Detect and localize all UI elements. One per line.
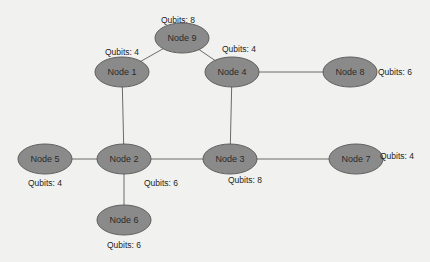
node-2: Node 2Qubits: 6: [97, 144, 178, 188]
qubits-label: Qubits: 8: [161, 15, 195, 25]
node-label: Node 1: [107, 67, 136, 77]
node-7: Node 7Qubits: 4: [329, 144, 414, 174]
diagram-canvas: Node 9Qubits: 8Node 1Qubits: 4Node 4Qubi…: [0, 0, 430, 262]
node-label: Node 7: [341, 154, 370, 164]
node-9: Node 9Qubits: 8: [155, 15, 209, 53]
node-5: Node 5Qubits: 4: [18, 144, 72, 188]
node-1: Node 1Qubits: 4: [95, 47, 149, 87]
qubits-label: Qubits: 4: [222, 44, 256, 54]
node-label: Node 2: [109, 154, 138, 164]
nodes-layer: Node 9Qubits: 8Node 1Qubits: 4Node 4Qubi…: [18, 15, 414, 250]
node-label: Node 5: [30, 154, 59, 164]
network-diagram: Node 9Qubits: 8Node 1Qubits: 4Node 4Qubi…: [0, 0, 430, 262]
node-label: Node 9: [167, 33, 196, 43]
node-label: Node 6: [109, 215, 138, 225]
node-4: Node 4Qubits: 4: [205, 44, 259, 87]
qubits-label: Qubits: 4: [28, 178, 62, 188]
node-6: Node 6Qubits: 6: [97, 205, 151, 250]
node-8: Node 8Qubits: 6: [323, 57, 412, 87]
node-3: Node 3Qubits: 8: [203, 144, 262, 185]
qubits-label: Qubits: 4: [380, 151, 414, 161]
node-label: Node 4: [217, 67, 246, 77]
qubits-label: Qubits: 4: [105, 47, 139, 57]
edges-layer: [45, 38, 356, 220]
qubits-label: Qubits: 8: [228, 175, 262, 185]
qubits-label: Qubits: 6: [378, 67, 412, 77]
node-label: Node 3: [215, 154, 244, 164]
qubits-label: Qubits: 6: [107, 240, 141, 250]
qubits-label: Qubits: 6: [144, 178, 178, 188]
node-label: Node 8: [335, 67, 364, 77]
